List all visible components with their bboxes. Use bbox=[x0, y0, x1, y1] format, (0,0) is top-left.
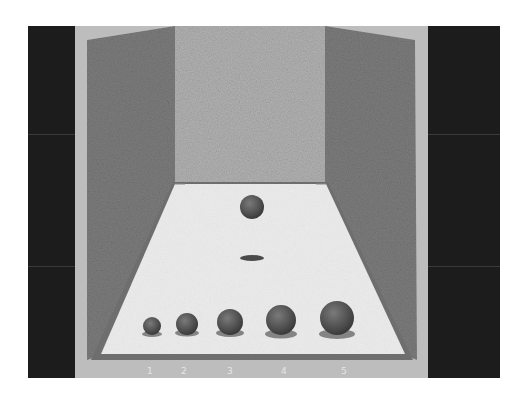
sphere-4 bbox=[265, 305, 297, 339]
label-3: 3 bbox=[227, 366, 233, 376]
floating-sphere-shadow bbox=[240, 255, 264, 261]
band-divider bbox=[428, 134, 500, 135]
label-5: 5 bbox=[341, 366, 347, 376]
sphere-labels: 1 2 3 4 5 bbox=[75, 366, 428, 378]
left-dark-band bbox=[28, 26, 75, 378]
band-divider bbox=[28, 266, 75, 267]
box-scene bbox=[75, 26, 428, 378]
scene-panel: 1 2 3 4 5 bbox=[75, 26, 428, 378]
band-divider bbox=[28, 134, 75, 135]
figure-frame: 1 2 3 4 5 bbox=[28, 26, 500, 378]
label-1: 1 bbox=[147, 366, 153, 376]
right-dark-band bbox=[428, 26, 500, 378]
label-2: 2 bbox=[181, 366, 187, 376]
sphere-5 bbox=[319, 301, 355, 339]
band-divider bbox=[428, 266, 500, 267]
floating-sphere bbox=[240, 195, 264, 219]
label-4: 4 bbox=[281, 366, 287, 376]
back-wall bbox=[173, 26, 328, 184]
